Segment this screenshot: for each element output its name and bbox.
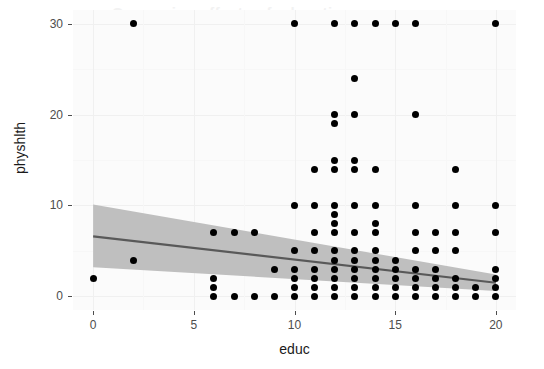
data-point <box>291 266 298 273</box>
data-point <box>331 166 338 173</box>
data-point <box>452 202 459 209</box>
y-tick-label: 0 <box>29 290 63 302</box>
data-point <box>351 157 358 164</box>
data-point <box>372 202 379 209</box>
data-point <box>392 284 399 291</box>
data-point <box>372 229 379 236</box>
y-tick-mark <box>68 115 72 116</box>
data-point <box>311 293 318 300</box>
data-point <box>372 266 379 273</box>
x-tick-label: 0 <box>73 319 113 331</box>
data-point <box>412 20 419 27</box>
data-point <box>452 293 459 300</box>
data-point <box>392 275 399 282</box>
data-point <box>351 257 358 264</box>
data-point <box>251 293 258 300</box>
data-point <box>311 266 318 273</box>
y-axis-title: physhlth <box>12 98 28 198</box>
data-point <box>412 284 419 291</box>
data-point <box>311 284 318 291</box>
data-point <box>472 284 479 291</box>
data-point <box>372 293 379 300</box>
data-point <box>392 266 399 273</box>
data-point <box>412 275 419 282</box>
data-point <box>311 166 318 173</box>
data-point <box>452 284 459 291</box>
data-point <box>412 111 419 118</box>
data-point <box>412 293 419 300</box>
x-tick-label: 15 <box>375 319 415 331</box>
plot-panel <box>73 10 516 310</box>
x-tick-label: 5 <box>174 319 214 331</box>
x-tick-mark <box>194 311 195 315</box>
data-point <box>392 257 399 264</box>
x-tick-mark <box>395 311 396 315</box>
data-point <box>130 20 137 27</box>
data-point <box>432 266 439 273</box>
x-tick-mark <box>496 311 497 315</box>
data-point <box>291 293 298 300</box>
y-tick-label: 10 <box>29 199 63 211</box>
data-point <box>372 220 379 227</box>
y-tick-label: 20 <box>29 109 63 121</box>
data-point <box>372 257 379 264</box>
x-axis-title: educ <box>73 341 516 357</box>
data-point <box>372 275 379 282</box>
data-point <box>331 284 338 291</box>
x-tick-mark <box>93 311 94 315</box>
data-point <box>291 275 298 282</box>
data-point <box>331 257 338 264</box>
data-point <box>351 266 358 273</box>
data-point <box>331 157 338 164</box>
scatter-plot-figure: Comparing effects of education 0102030 0… <box>0 0 544 369</box>
data-point <box>351 166 358 173</box>
data-point <box>452 275 459 282</box>
data-point <box>372 284 379 291</box>
data-point <box>291 284 298 291</box>
data-point <box>412 202 419 209</box>
x-tick-label: 10 <box>275 319 315 331</box>
data-point <box>311 275 318 282</box>
data-point <box>452 166 459 173</box>
x-tick-mark <box>295 311 296 315</box>
x-tick-label: 20 <box>476 319 516 331</box>
data-point <box>392 20 399 27</box>
data-point <box>412 229 419 236</box>
data-point <box>231 293 238 300</box>
data-point <box>251 229 258 236</box>
data-point <box>291 202 298 209</box>
y-tick-label: 30 <box>29 18 63 30</box>
data-point <box>432 275 439 282</box>
data-point <box>372 166 379 173</box>
data-point <box>492 266 499 273</box>
y-tick-mark <box>68 24 72 25</box>
y-tick-mark <box>68 296 72 297</box>
data-point <box>432 293 439 300</box>
y-tick-mark <box>68 205 72 206</box>
data-point <box>271 266 278 273</box>
data-point <box>392 293 399 300</box>
data-point <box>412 266 419 273</box>
data-point <box>372 20 379 27</box>
data-point <box>372 247 379 254</box>
data-point <box>130 257 137 264</box>
data-point <box>331 275 338 282</box>
data-point <box>90 275 97 282</box>
data-point <box>432 284 439 291</box>
data-point <box>331 266 338 273</box>
data-point <box>271 293 278 300</box>
data-point <box>231 229 238 236</box>
